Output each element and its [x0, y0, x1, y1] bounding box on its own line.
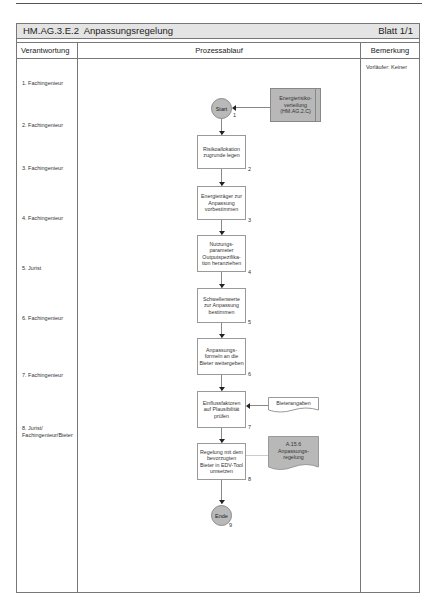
column-header-remark: Bemerkung [360, 42, 420, 59]
connector [250, 405, 268, 406]
step-label: Einflussfaktoren auf Plausibilität prüfe… [203, 400, 241, 420]
start-label: Start [216, 106, 228, 112]
arrow-left-icon [246, 403, 250, 409]
sheet-title-bar: HM.AG.3.E.2 Anpassungsregelung Blatt 1/1 [16, 23, 420, 39]
end-label: Ende [215, 513, 228, 519]
document-label: A.15.6 Anpassungs- regelung [268, 441, 319, 461]
step-number: 4 [248, 269, 251, 275]
process-step-2: Risikoallokation zugrunde legen [197, 135, 246, 169]
document-label: Bieterangaben [268, 400, 319, 407]
role-7: 7. Fachingenieur [22, 372, 63, 379]
page-header-rule [16, 3, 422, 4]
document-anpassungsregelung: A.15.6 Anpassungs- regelung [268, 436, 319, 472]
role-3: 3. Fachingenieur [22, 165, 63, 172]
process-step-3: Energieträger zur Anpassung vorbestimmen [197, 186, 246, 220]
start-node: Start [211, 98, 232, 119]
predef-bar [315, 89, 316, 121]
step-label: Nutzungs- parameter Outputspezifika- tio… [202, 241, 241, 267]
step-number: 7 [248, 424, 251, 430]
step-label: Schwellenwerte zur Anpassung bestimmen [203, 296, 240, 316]
role-2: 2. Fachingenieur [22, 122, 63, 129]
process-step-8: Regelung mit dem bevorzugten Bieter in E… [197, 443, 246, 480]
step-number: 1 [233, 112, 236, 118]
step-number: 8 [248, 476, 251, 482]
step-label: Regelung mit dem bevorzugten Bieter in E… [200, 449, 243, 475]
sheet-number: Blatt 1/1 [378, 24, 413, 38]
step-number: 2 [248, 166, 251, 172]
arrow-down-icon [219, 500, 225, 504]
role-8-line1: 8. Jurist/ [22, 425, 43, 432]
step-label: Risikoallokation zugrunde legen [203, 146, 240, 159]
role-8-line2: Fachingenieur/Bieter [22, 432, 73, 439]
column-divider [360, 58, 361, 593]
column-header-responsibility: Verantwortung [16, 42, 78, 59]
step-number: 5 [248, 319, 251, 325]
step-number: 9 [229, 522, 232, 528]
step-number: 6 [248, 371, 251, 377]
role-5: 5. Jurist [22, 265, 41, 272]
role-4: 4. Fachingenieur [22, 215, 63, 222]
process-step-7: Einflussfaktoren auf Plausibilität prüfe… [197, 391, 246, 428]
step-number: 3 [248, 217, 251, 223]
remark-predecessor: Vorläufer: Keiner [366, 64, 407, 70]
connector [236, 107, 270, 108]
role-1: 1. Fachingenieur [22, 80, 63, 87]
step-label: Anpassungs- formeln an die Bieter weiter… [199, 347, 243, 367]
arrow-left-icon [232, 105, 236, 111]
column-divider [77, 58, 78, 593]
process-step-5: Schwellenwerte zur Anpassung bestimmen [197, 288, 246, 323]
column-header-process: Prozessablauf [77, 42, 361, 59]
step-label: Energieträger zur Anpassung vorbestimmen [201, 193, 242, 213]
predefined-process-label: Energierisiko- verteilung (HM.AG.2.C) [279, 95, 311, 115]
process-step-6: Anpassungs- formeln an die Bieter weiter… [197, 338, 246, 375]
predefined-process-energy-risk: Energierisiko- verteilung (HM.AG.2.C) [270, 88, 321, 122]
role-6: 6. Fachingenieur [22, 315, 63, 322]
sheet-title: HM.AG.3.E.2 Anpassungsregelung [23, 24, 173, 38]
process-step-4: Nutzungs- parameter Outputspezifika- tio… [197, 235, 246, 272]
connector [246, 455, 268, 456]
document-bieterangaben: Bieterangaben [268, 397, 319, 413]
